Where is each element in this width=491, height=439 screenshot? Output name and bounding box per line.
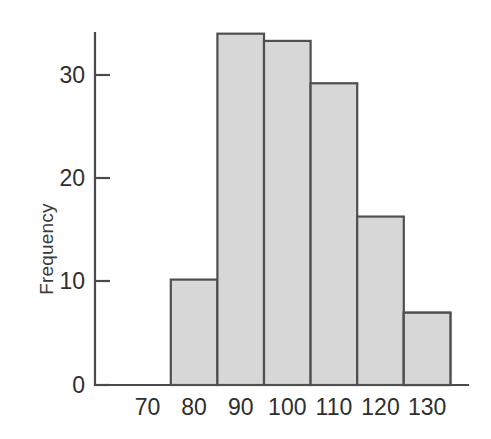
y-tick-label-0: 0	[72, 372, 85, 398]
x-tick-label-120: 120	[361, 394, 399, 420]
x-tick-label-80: 80	[181, 394, 207, 420]
bar-group	[171, 34, 451, 385]
x-tick-label-110: 110	[316, 394, 353, 420]
bar-90	[264, 41, 311, 385]
bar-100	[311, 83, 358, 385]
bar-70	[171, 280, 218, 385]
bar-80	[217, 34, 264, 385]
y-tick-label-10: 10	[59, 268, 85, 294]
x-tick-label-130: 130	[408, 394, 446, 420]
plot-area: 0 10 20 30 70 80 90 100 110 120 130	[0, 0, 491, 439]
x-tick-label-90: 90	[228, 394, 254, 420]
bar-110	[357, 217, 404, 385]
bar-130	[404, 313, 451, 385]
y-tick-label-30: 30	[59, 62, 85, 88]
y-tick-label-20: 20	[59, 165, 85, 191]
histogram-figure: Frequency 0 10 20 30 70 80 90	[0, 0, 491, 439]
y-tick-group	[95, 75, 110, 385]
x-tick-label-70: 70	[135, 394, 161, 420]
x-tick-label-100: 100	[268, 394, 306, 420]
